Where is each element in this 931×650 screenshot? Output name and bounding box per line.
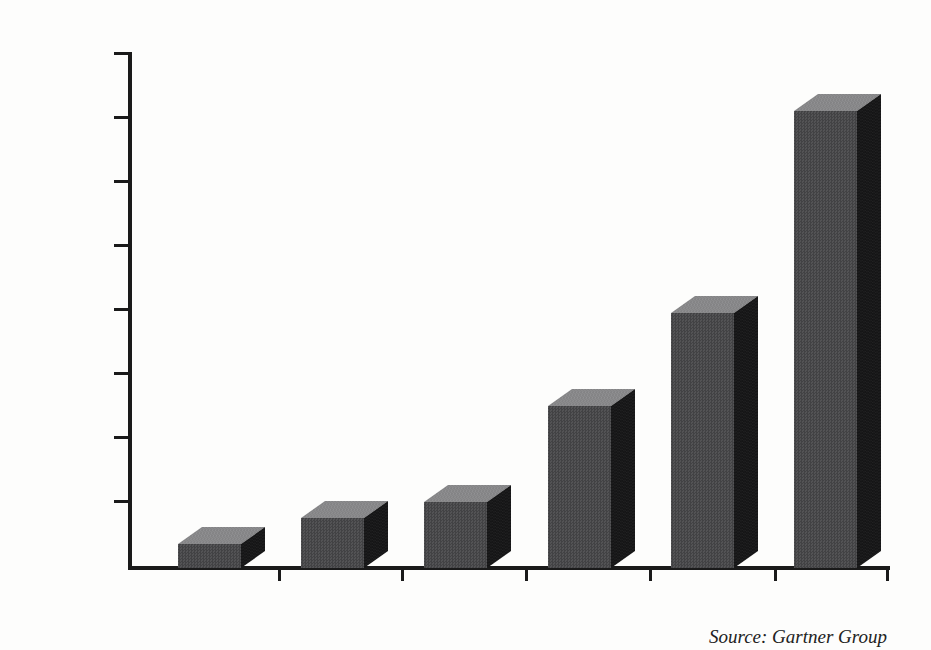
x-axis-tick (774, 566, 777, 581)
source-credit: Source: Gartner Group (709, 627, 887, 647)
x-axis-tick (525, 566, 528, 581)
y-axis-tick (114, 436, 128, 439)
y-axis-tick (114, 116, 128, 119)
bar-2003-front-face (671, 313, 734, 568)
bar-chart (0, 0, 931, 650)
bar-1999-front-face (178, 544, 241, 568)
x-axis-tick (886, 566, 889, 581)
y-axis-tick (114, 308, 128, 311)
bar-2000-front-face (301, 518, 364, 568)
bar-2003-side-face (734, 296, 758, 568)
y-axis-tick (114, 52, 128, 55)
x-axis-tick (401, 566, 404, 581)
chart-figure: Source: Gartner Group (0, 0, 931, 650)
bar-2004-front-face (794, 111, 857, 568)
x-axis-tick (278, 566, 281, 581)
bar-2002-front-face (548, 406, 611, 568)
y-axis-tick (114, 244, 128, 247)
bar-2004-side-face (857, 94, 881, 568)
y-axis-line (128, 52, 132, 570)
y-axis-tick (114, 500, 128, 503)
bar-2002-side-face (611, 389, 635, 568)
x-axis-tick (649, 566, 652, 581)
y-axis-tick (114, 372, 128, 375)
y-axis-tick (114, 180, 128, 183)
bar-2001-front-face (424, 502, 487, 568)
